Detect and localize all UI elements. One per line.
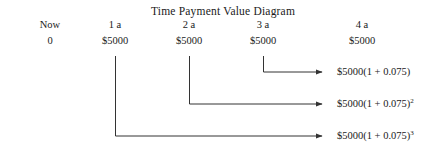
future-value-exponent: 2 [410,97,414,105]
connector-year1 [116,56,323,136]
future-value-expression: $5000(1 + 0.075) [337,66,410,77]
future-value-label-3: $5000(1 + 0.075)3 [337,131,414,142]
future-value-label-2: $5000(1 + 0.075)2 [337,99,414,110]
future-value-expression: $5000(1 + 0.075) [337,130,410,141]
future-value-expression: $5000(1 + 0.075) [337,98,410,109]
connector-year3 [264,56,323,72]
time-value-diagram-figure: Time Payment Value Diagram Now 0 1 a $50… [0,0,446,152]
connector-year2 [190,56,323,104]
future-value-exponent: 3 [410,129,414,137]
future-value-label-1: $5000(1 + 0.075) [337,67,410,78]
